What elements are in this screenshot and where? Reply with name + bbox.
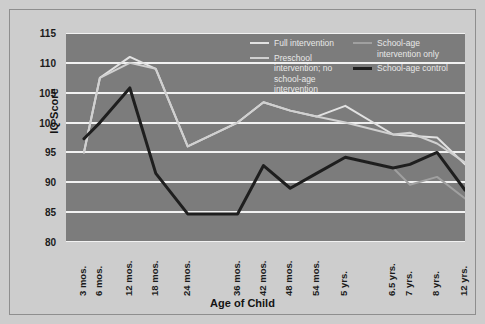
legend-entry: School-age intervention only: [353, 38, 463, 59]
legend-swatch-icon: [250, 42, 269, 44]
series-line-3: [84, 88, 465, 214]
x-axis-tick-label: 5 yrs.: [338, 271, 349, 296]
x-axis-tick-label: 18 mos.: [149, 261, 160, 296]
x-axis-tick-label: 3 mos.: [77, 266, 88, 296]
chart-figure: 11511010510095908580 IQ Score Full inter…: [0, 0, 485, 324]
y-axis-tick-label: 115: [40, 28, 56, 39]
x-axis-tick-label: 24 mos.: [181, 261, 192, 296]
x-axis-tick-label: 7 yrs.: [403, 271, 414, 296]
x-axis-tick-label: 12 mos.: [123, 261, 134, 296]
legend-label: Full intervention: [274, 38, 345, 49]
x-axis-tick-label: 8 yrs.: [430, 271, 441, 296]
y-axis-tick-label: 90: [45, 177, 56, 188]
y-axis-tick-label: 85: [45, 207, 56, 218]
legend: Full interventionPreschool intervention;…: [250, 38, 460, 100]
legend-swatch-icon: [353, 67, 372, 70]
legend-column-right: School-age intervention onlySchool-age c…: [353, 38, 463, 78]
legend-entry: Full intervention: [250, 38, 345, 49]
legend-entry: School-age control: [353, 63, 463, 74]
legend-label: School-age control: [377, 63, 463, 74]
legend-swatch-icon: [250, 57, 269, 59]
legend-column-left: Full interventionPreschool intervention;…: [250, 38, 345, 99]
x-axis-tick-label: 42 mos.: [257, 261, 268, 296]
x-axis-tick-label: 12 yrs.: [458, 266, 469, 296]
legend-entry: Preschool intervention; no school-age in…: [250, 53, 345, 95]
x-axis: 3 mos.6 mos.12 mos.18 mos.24 mos.36 mos.…: [66, 244, 465, 296]
y-axis-title: IQ Score: [48, 51, 60, 171]
x-axis-tick-label: 36 mos.: [231, 261, 242, 296]
x-axis-tick-label: 48 mos.: [283, 261, 294, 296]
legend-label: School-age intervention only: [377, 38, 463, 59]
legend-label: Preschool intervention; no school-age in…: [274, 53, 345, 95]
x-axis-tick-label: 6 mos.: [93, 266, 104, 296]
y-axis-tick-label: 80: [45, 237, 56, 248]
legend-swatch-icon: [353, 42, 372, 44]
x-axis-tick-label: 6.5 yrs.: [386, 263, 397, 296]
x-axis-tick-label: 54 mos.: [310, 261, 321, 296]
x-axis-title: Age of Child: [0, 297, 485, 309]
